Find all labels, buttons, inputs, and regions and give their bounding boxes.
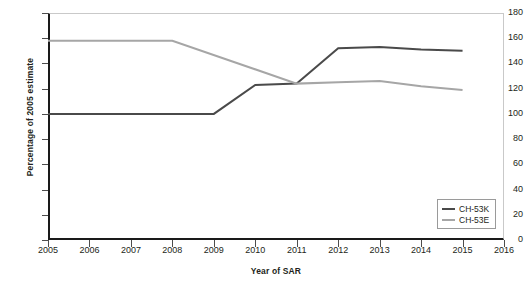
legend-swatch-icon — [442, 219, 455, 221]
x-tick-label: 2013 — [357, 245, 403, 255]
x-tick-label: 2015 — [440, 245, 486, 255]
x-tick-label: 2010 — [232, 245, 278, 255]
x-axis-title: Year of SAR — [48, 266, 504, 276]
y-axis-title: Percentage of 2005 estimate — [25, 17, 35, 217]
series-line-ch-53k — [48, 47, 463, 114]
x-tick-label: 2009 — [191, 245, 237, 255]
chart-legend: CH-53KCH-53E — [437, 199, 496, 229]
x-tick-label: 2011 — [274, 245, 320, 255]
legend-swatch-icon — [442, 208, 455, 210]
x-tick-label: 2005 — [25, 245, 71, 255]
x-tick-label: 2007 — [108, 245, 154, 255]
legend-label: CH-53E — [459, 215, 489, 225]
legend-label: CH-53K — [459, 204, 489, 214]
x-tick-label: 2016 — [481, 245, 527, 255]
x-tick-label: 2008 — [149, 245, 195, 255]
x-tick-label: 2014 — [398, 245, 444, 255]
legend-item-ch-53k: CH-53K — [442, 203, 489, 214]
legend-item-ch-53e: CH-53E — [442, 214, 489, 225]
series-lines — [48, 13, 504, 240]
x-tick-label: 2012 — [315, 245, 361, 255]
x-tick-label: 2006 — [66, 245, 112, 255]
